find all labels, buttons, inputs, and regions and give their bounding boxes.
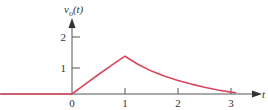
y-axis-label-argument: (t) <box>73 3 84 16</box>
y-tick-label-2: 2 <box>61 31 67 43</box>
x-tick-label-2: 2 <box>175 97 181 109</box>
x-tick-label-3: 3 <box>228 97 234 109</box>
y-tick-label-1: 1 <box>61 62 67 74</box>
y-axis-label: vo(t) <box>64 3 84 18</box>
x-tick-label-1: 1 <box>122 97 128 109</box>
vo-curve <box>0 56 236 94</box>
x-tick-label-0: 0 <box>69 97 75 109</box>
chart-svg: 2 1 0 1 2 3 vo(t) t <box>0 0 268 110</box>
x-axis-arrow-icon <box>252 91 262 98</box>
chart-container: 2 1 0 1 2 3 vo(t) t <box>0 0 268 110</box>
x-axis-label: t <box>262 88 266 100</box>
y-axis-arrow-icon <box>69 18 76 28</box>
